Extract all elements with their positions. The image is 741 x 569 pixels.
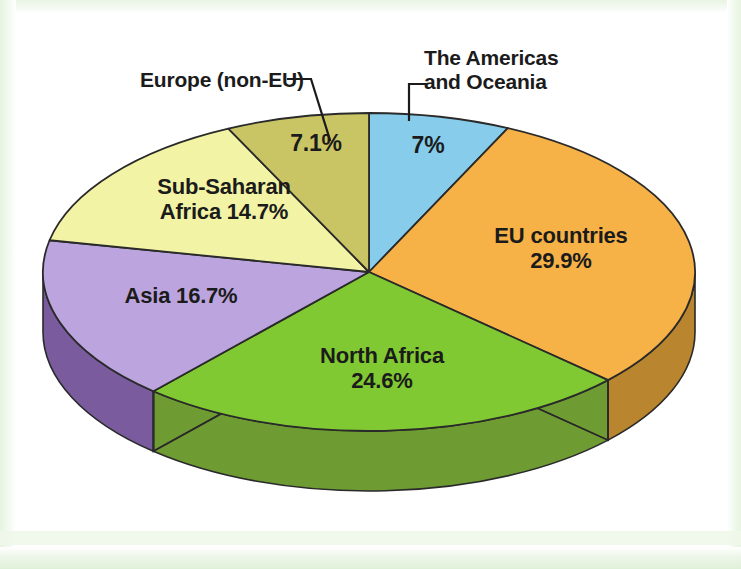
callout-label-europe-non-eu: Europe (non-EU) (140, 68, 304, 92)
pie-chart-canvas (0, 0, 741, 569)
pie-chart-figure: Europe (non-EU) The Americas and Oceania… (0, 0, 741, 569)
pie-top-face (43, 113, 695, 431)
callout-label-the-americas-and-oceania: The Americas and Oceania (424, 46, 559, 94)
